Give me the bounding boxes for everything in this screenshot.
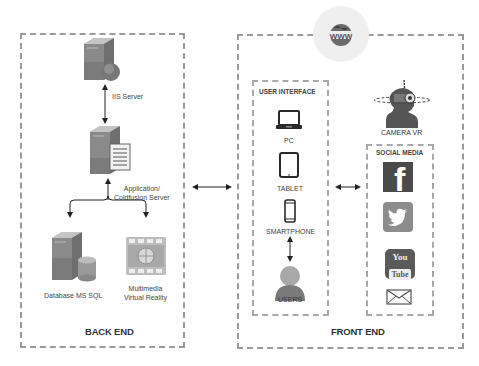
tablet-icon [279,152,299,178]
youtube-you-text: You [385,252,415,263]
youtube-tube-text: Tube [389,269,410,280]
vr-camera-head-icon [372,80,432,130]
app-fork-arrows [60,178,160,218]
server-document-icon [86,124,132,178]
pc-label: PC [284,136,294,145]
tablet-label: TABLET [277,184,303,193]
svg-text:WWW: WWW [330,32,353,41]
iis-server-label: IIS Server [112,92,143,101]
iis-app-arrow [100,84,110,124]
smartphone-label: SMARTPHONE [266,227,315,236]
laptop-icon [276,110,302,130]
multimedia-label-line2: Virtual Reality [124,293,167,302]
database-label: Database MS SQL [44,291,102,300]
multimedia-label-line1: Multimedia [124,284,167,293]
twitter-bird-glyph [388,208,408,226]
front-end-title: FRONT END [331,326,385,337]
back-end-title: BACK END [85,326,134,337]
users-label: USERS [278,295,302,304]
server-database-icon [48,230,100,282]
www-globe-icon: WWW [326,20,356,48]
ui-social-arrow [335,183,361,191]
server-globe-icon [78,36,126,84]
camera-vr-label: CAMERA VR [381,128,422,137]
backend-frontend-arrow [192,183,232,191]
social-media-title: SOCIAL MEDIA [376,149,423,156]
multimedia-label: Multimedia Virtual Reality [124,284,167,302]
email-icon[interactable] [386,289,412,305]
smartphone-users-arrow [285,236,295,262]
user-interface-title: USER INTERFACE [259,88,316,95]
youtube-icon[interactable]: You Tube [385,249,415,279]
facebook-icon[interactable]: f [383,162,413,192]
twitter-icon[interactable] [383,202,413,232]
smartphone-icon [284,199,296,223]
facebook-glyph: f [394,162,405,192]
film-globe-icon [126,237,166,275]
